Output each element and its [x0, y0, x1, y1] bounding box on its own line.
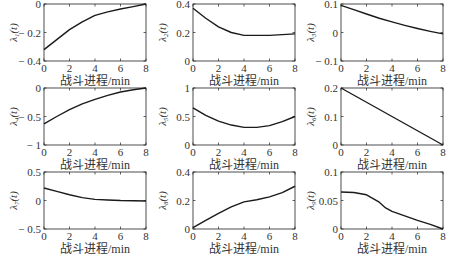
x-tick-label: 4 — [241, 62, 247, 74]
y-tick-label: − 0.5 — [18, 111, 41, 123]
y-tick-label: − 0.1 — [315, 55, 338, 67]
x-tick-label: 6 — [415, 62, 421, 74]
y-tick-label: − 1 — [27, 139, 41, 151]
x-tick-label: 6 — [267, 146, 273, 158]
y-axis-label: λ4(t) — [7, 107, 21, 127]
subplot-6: 0246800.10.2战斗进程/minλ6(t) — [304, 82, 446, 172]
plot-frame — [193, 172, 295, 229]
x-axis-label: 战斗进程/min — [209, 73, 279, 88]
x-tick-label: 8 — [143, 146, 149, 158]
series-line-λ5 — [193, 108, 295, 127]
y-tick-label: 1 — [185, 82, 191, 94]
x-axis-label: 战斗进程/min — [209, 157, 279, 172]
subplot-grid: 02468− 0.4− 0.20战斗进程/minλ1(t)0246800.20.… — [0, 0, 451, 260]
x-axis-label: 战斗进程/min — [60, 157, 130, 172]
x-tick-label: 0 — [338, 230, 344, 242]
x-tick-label: 4 — [92, 146, 98, 158]
y-tick-label: 0.1 — [324, 111, 338, 123]
y-tick-label: 0 — [333, 27, 339, 39]
y-tick-label: 0.2 — [324, 82, 338, 94]
x-tick-label: 2 — [67, 62, 73, 74]
x-tick-label: 0 — [190, 62, 196, 74]
x-tick-label: 8 — [292, 230, 298, 242]
x-axis-label: 战斗进程/min — [60, 241, 130, 256]
x-tick-label: 4 — [389, 62, 395, 74]
series-line-λ6 — [341, 88, 443, 145]
y-tick-label: 0.1 — [324, 0, 338, 10]
y-tick-label: 0 — [333, 139, 339, 151]
x-axis-label: 战斗进程/min — [60, 73, 130, 88]
x-tick-label: 2 — [67, 146, 73, 158]
x-axis-label: 战斗进程/min — [357, 241, 427, 256]
y-tick-label: 0.2 — [176, 27, 190, 39]
subplot-8: 0246800.20.4战斗进程/minλ8(t) — [156, 166, 298, 256]
x-tick-label: 2 — [364, 146, 370, 158]
y-tick-label: 0 — [333, 223, 339, 235]
x-axis-label: 战斗进程/min — [357, 157, 427, 172]
x-tick-label: 6 — [118, 146, 124, 158]
x-tick-label: 8 — [292, 62, 298, 74]
y-axis-label: λ3(t) — [304, 23, 318, 43]
x-tick-label: 2 — [364, 230, 370, 242]
subplot-9: 0246800.050.1战斗进程/minλ9(t) — [304, 166, 446, 256]
x-tick-label: 2 — [364, 62, 370, 74]
y-tick-label: 0.2 — [176, 195, 190, 207]
y-axis-label: λ8(t) — [156, 191, 170, 211]
x-tick-label: 6 — [415, 230, 421, 242]
x-tick-label: 4 — [92, 230, 98, 242]
x-tick-label: 0 — [190, 230, 196, 242]
x-tick-label: 6 — [118, 230, 124, 242]
x-tick-label: 0 — [41, 146, 47, 158]
x-tick-label: 4 — [92, 62, 98, 74]
x-tick-label: 8 — [440, 62, 446, 74]
plot-frame — [44, 4, 146, 61]
y-tick-label: 0.4 — [176, 0, 190, 10]
series-line-λ8 — [193, 186, 295, 227]
x-tick-label: 8 — [143, 62, 149, 74]
y-tick-label: 0 — [185, 55, 191, 67]
y-tick-label: 0.5 — [176, 111, 190, 123]
x-tick-label: 0 — [41, 62, 47, 74]
x-axis-label: 战斗进程/min — [357, 73, 427, 88]
x-tick-label: 6 — [118, 62, 124, 74]
series-line-λ7 — [44, 188, 146, 201]
x-tick-label: 2 — [216, 146, 222, 158]
y-tick-label: 0.4 — [176, 166, 190, 178]
x-tick-label: 8 — [292, 146, 298, 158]
x-tick-label: 2 — [216, 230, 222, 242]
subplot-4: 02468− 1− 0.50战斗进程/minλ4(t) — [7, 82, 149, 172]
y-axis-label: λ1(t) — [7, 23, 21, 43]
x-tick-label: 4 — [241, 146, 247, 158]
y-tick-label: 0 — [36, 82, 42, 94]
subplot-7: 02468− 0.500.5战斗进程/minλ7(t) — [7, 166, 149, 256]
x-tick-label: 6 — [267, 62, 273, 74]
x-tick-label: 2 — [67, 230, 73, 242]
y-tick-label: 0 — [36, 0, 42, 10]
x-tick-label: 8 — [440, 230, 446, 242]
x-tick-label: 6 — [267, 230, 273, 242]
x-tick-label: 8 — [440, 146, 446, 158]
series-line-λ2 — [193, 8, 295, 35]
x-tick-label: 8 — [143, 230, 149, 242]
plot-frame — [193, 4, 295, 61]
y-tick-label: 0 — [185, 223, 191, 235]
x-tick-label: 2 — [216, 62, 222, 74]
y-tick-label: 0.1 — [324, 166, 338, 178]
y-axis-label: λ2(t) — [156, 23, 170, 43]
y-tick-label: 0.5 — [27, 166, 41, 178]
series-line-λ9 — [341, 192, 443, 229]
y-axis-label: λ6(t) — [304, 107, 318, 127]
x-tick-label: 0 — [338, 62, 344, 74]
y-tick-label: − 0.4 — [18, 55, 41, 67]
x-tick-label: 0 — [190, 146, 196, 158]
plot-frame — [341, 4, 443, 61]
y-axis-label: λ5(t) — [156, 107, 170, 127]
subplot-5: 0246800.51战斗进程/minλ5(t) — [156, 82, 298, 172]
x-tick-label: 4 — [389, 230, 395, 242]
series-line-λ4 — [44, 88, 146, 124]
plot-frame — [341, 172, 443, 229]
subplot-3: 02468− 0.100.1战斗进程/minλ3(t) — [304, 0, 446, 88]
series-line-λ3 — [341, 5, 443, 33]
x-tick-label: 0 — [41, 230, 47, 242]
x-tick-label: 4 — [389, 146, 395, 158]
